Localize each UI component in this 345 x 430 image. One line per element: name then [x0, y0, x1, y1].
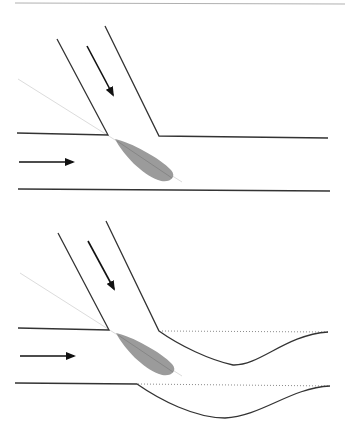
confluence-diagram: [0, 0, 345, 430]
original-upper-wall-dotted: [162, 331, 328, 332]
original-lower-wall-dotted: [138, 384, 330, 386]
tributary-flow-arrow: [87, 46, 113, 95]
main-channel-bottom-wall: [18, 189, 330, 191]
top-panel: [17, 26, 330, 191]
tributary-flow-arrow: [88, 241, 114, 289]
tributary-right-wall-and-main-upper-right: [105, 26, 328, 138]
deformed-lower-wall: [15, 383, 330, 418]
bottom-panel: [15, 221, 330, 418]
frame-line: [15, 3, 345, 4]
tributary-left-wall-and-main-upper-left: [18, 233, 109, 330]
